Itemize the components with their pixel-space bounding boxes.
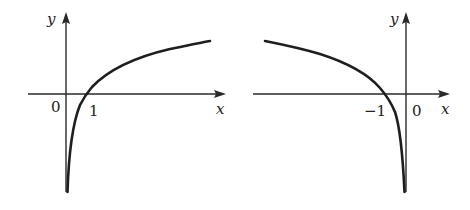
y-axis-label: y bbox=[46, 10, 56, 28]
origin-label: 0 bbox=[412, 102, 422, 120]
panel-log-neg-x: y x 0 −1 bbox=[253, 10, 450, 192]
figure-canvas: y x 0 1 y x 0 −1 bbox=[0, 0, 470, 210]
y-axis-label: y bbox=[389, 10, 399, 28]
x-axis-label: x bbox=[441, 100, 450, 118]
x-axis-label: x bbox=[216, 100, 225, 118]
intercept-label: −1 bbox=[364, 102, 386, 120]
origin-label: 0 bbox=[51, 98, 61, 116]
panel-log-x: y x 0 1 bbox=[28, 10, 226, 192]
intercept-label: 1 bbox=[89, 102, 99, 120]
